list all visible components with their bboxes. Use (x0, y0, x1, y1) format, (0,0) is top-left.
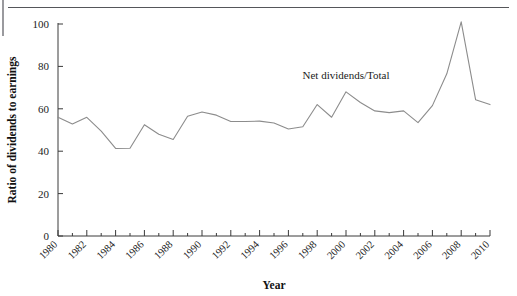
x-axis: 1980198219841986198819901992199419961998… (37, 230, 492, 261)
x-axis-tick-label: 2000 (325, 239, 348, 262)
x-axis-tick-label: 1988 (152, 239, 175, 262)
series-annotation-label: Net dividends/Total (303, 69, 390, 81)
y-axis-title: Ratio of dividends to earnings (6, 56, 19, 203)
x-axis-tick-label: 2002 (354, 239, 377, 262)
x-axis-tick-label: 2010 (469, 239, 492, 262)
y-axis-tick-label: 40 (38, 145, 50, 157)
x-axis-tick-label: 1998 (296, 239, 319, 262)
x-axis-tick-label: 1996 (267, 239, 290, 262)
x-axis-tick-label: 1990 (181, 239, 204, 262)
data-series-net-dividends-total: Net dividends/Total (58, 22, 490, 149)
x-axis-title: Year (263, 279, 286, 291)
y-axis-tick-label: 60 (38, 103, 50, 115)
y-axis: 020406080100 (33, 18, 64, 242)
y-axis-tick-label: 0 (44, 230, 50, 242)
chart-figure: 020406080100 198019821984198619881990199… (0, 0, 517, 296)
x-axis-tick-label: 1984 (94, 238, 117, 261)
line-chart-plot: 020406080100 198019821984198619881990199… (0, 0, 517, 296)
y-axis-tick-label: 80 (38, 60, 50, 72)
x-axis-tick-label: 1994 (238, 238, 261, 261)
x-axis-tick-label: 2008 (440, 239, 463, 262)
series-line (58, 22, 490, 149)
x-axis-tick-label: 1986 (123, 239, 146, 262)
x-axis-tick-label: 1992 (210, 239, 233, 262)
y-axis-tick-label: 20 (38, 188, 50, 200)
x-axis-tick-label: 1980 (37, 239, 60, 262)
x-axis-tick-label: 1982 (66, 239, 89, 262)
x-axis-tick-label: 2006 (411, 239, 434, 262)
y-axis-tick-label: 100 (33, 18, 50, 30)
x-axis-tick-label: 2004 (382, 238, 405, 261)
